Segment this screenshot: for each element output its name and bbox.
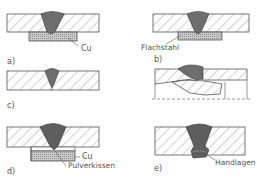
- annotation-flachstahl: Flachstahl: [141, 44, 179, 52]
- panel-e: [155, 124, 245, 160]
- annotation-cu-d: Cu: [82, 153, 93, 161]
- weld-backing-diagram: [0, 0, 257, 182]
- annotation-cu-a: Cu: [81, 45, 92, 53]
- panel-label-d: d): [7, 168, 15, 176]
- panel-c: [7, 69, 99, 92]
- panel-b2: [152, 65, 250, 99]
- panel-a: [7, 12, 99, 47]
- annotation-handlagen: Handlagen: [215, 159, 256, 167]
- panel-b: [153, 12, 249, 45]
- panel-label-c: c): [7, 102, 15, 110]
- panel-label-e: e): [154, 165, 162, 173]
- panel-label-b: b): [154, 56, 162, 64]
- annotation-pulverkissen: Pulverkissen: [68, 162, 115, 170]
- panel-label-a: a): [7, 58, 15, 66]
